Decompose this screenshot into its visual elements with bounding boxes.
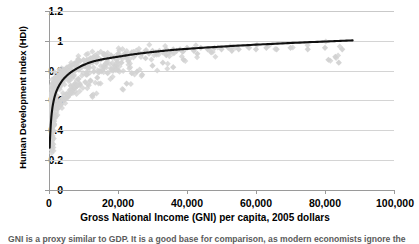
y-axis-title: Human Development Index (HDI) — [17, 3, 28, 193]
scatter-point — [160, 60, 166, 66]
scatter-point — [336, 60, 342, 66]
x-tick-label-0: 0 — [29, 197, 69, 209]
scatter-points-layer — [49, 39, 345, 157]
x-tick-label-100000: 100,000 — [360, 197, 419, 209]
x-tick-label-80000: 80,000 — [295, 197, 355, 209]
scatter-point — [154, 68, 160, 74]
scatter-point — [128, 81, 134, 87]
scatter-point — [164, 66, 170, 72]
x-tick-label-40000: 40,000 — [157, 197, 217, 209]
x-tick-label-20000: 20,000 — [88, 197, 148, 209]
figure-caption: GNI is a proxy similar to GDP. It is a g… — [8, 234, 408, 244]
scatter-point — [170, 64, 176, 70]
scatter-point — [146, 42, 152, 48]
x-axis-title: Gross National Income (GNI) per capita, … — [0, 212, 410, 223]
scatter-point — [165, 61, 171, 67]
scatter-point — [322, 45, 328, 51]
x-tick-label-60000: 60,000 — [226, 197, 286, 209]
scatter-point — [212, 54, 218, 60]
scatter-plot-canvas — [49, 11, 395, 191]
scatter-point — [149, 63, 155, 69]
scatter-point — [253, 46, 259, 52]
scatter-point — [143, 55, 149, 61]
